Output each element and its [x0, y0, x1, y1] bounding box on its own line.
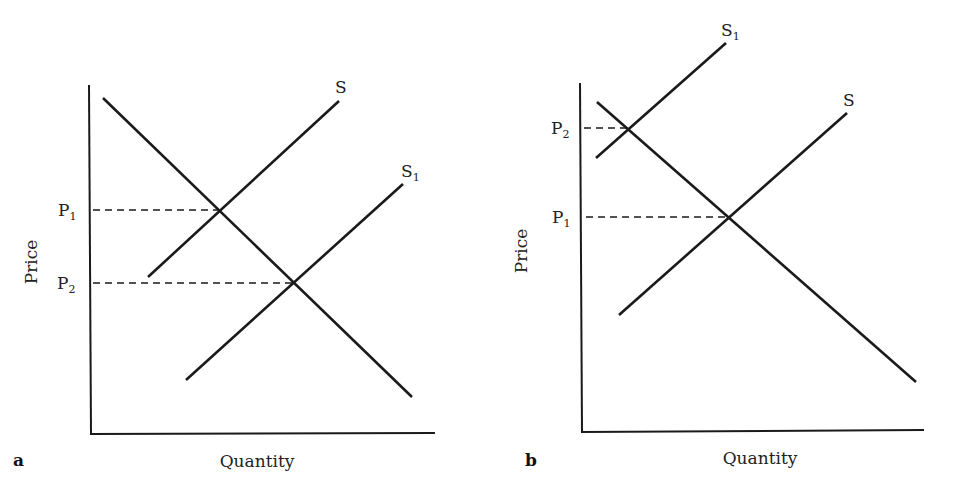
panel-b-x-axis	[581, 430, 924, 432]
panel-a-label-p1: P1	[58, 200, 76, 223]
panel-b-supply-curve-s1	[596, 43, 726, 158]
panel-b-label-p1: P1	[552, 207, 570, 230]
panel-b-label-p1-base: P	[552, 207, 563, 227]
panel-b-label-s1: S1	[721, 20, 740, 43]
panel-a-label-p2-base: P	[57, 273, 68, 293]
panel-b-label-s: S	[843, 90, 855, 110]
panel-a-label-p1-base: P	[58, 200, 69, 220]
panel-a-y-axis	[89, 85, 91, 434]
panel-a: S S1 P1 P2 Price Quantity a	[13, 77, 435, 471]
panel-a-label-p1-sub: 1	[69, 210, 76, 223]
panel-b-label-p1-sub: 1	[563, 217, 570, 230]
panel-b-label-s1-base: S	[721, 20, 733, 40]
panel-b-x-axis-title: Quantity	[723, 448, 798, 468]
panel-a-label-s1-base: S	[401, 161, 413, 181]
panel-a-x-axis-title: Quantity	[220, 451, 295, 471]
panel-b-demand-curve	[597, 102, 916, 382]
panel-b-y-axis	[580, 83, 582, 432]
panel-a-y-axis-title: Price	[21, 240, 41, 285]
panel-a-label-s: S	[335, 77, 347, 97]
panel-b-label-p2-base: P	[551, 118, 562, 138]
panel-a-letter: a	[13, 450, 24, 470]
panel-b-label-p2-sub: 2	[562, 128, 569, 141]
panel-b-label-p2: P2	[551, 118, 569, 141]
panel-a-x-axis	[90, 433, 435, 434]
figure: S S1 P1 P2 Price Quantity a S1 S P2 P1 P…	[0, 0, 953, 498]
panel-a-label-s1: S1	[401, 161, 420, 184]
panel-a-supply-curve-s	[148, 101, 339, 277]
panel-b-supply-curve-s	[619, 113, 847, 315]
panel-a-label-p2-sub: 2	[68, 283, 75, 296]
panel-b-label-s1-sub: 1	[733, 30, 740, 43]
panel-b-y-axis-title: Price	[511, 229, 531, 274]
panel-a-demand-curve	[103, 98, 412, 397]
panel-a-label-s1-sub: 1	[413, 171, 420, 184]
panel-a-label-p2: P2	[57, 273, 75, 296]
panel-b: S1 S P2 P1 Price Quantity b	[511, 20, 924, 470]
panel-b-letter: b	[525, 450, 537, 470]
